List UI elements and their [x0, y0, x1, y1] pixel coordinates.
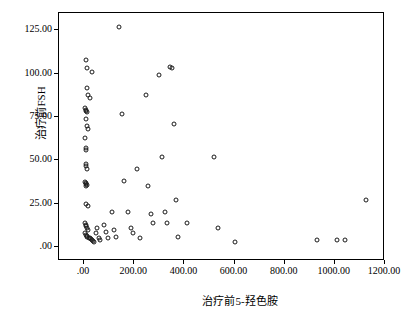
data-point — [170, 66, 175, 71]
data-point — [86, 127, 91, 132]
data-point — [84, 167, 89, 172]
data-point — [83, 183, 88, 188]
data-point — [176, 234, 181, 239]
data-point — [119, 111, 124, 116]
data-point — [113, 234, 118, 239]
y-tick-mark — [54, 159, 58, 160]
y-tick-mark — [54, 246, 58, 247]
data-point — [84, 85, 89, 90]
data-point — [85, 203, 90, 208]
data-point — [232, 239, 237, 244]
data-point — [83, 135, 88, 140]
data-point — [126, 210, 131, 215]
y-tick-mark — [54, 203, 58, 204]
x-tick-mark — [334, 260, 335, 264]
plot-area — [59, 13, 383, 259]
data-point — [131, 231, 136, 236]
x-tick-mark — [133, 260, 134, 264]
y-tick-label: .00 — [2, 240, 52, 251]
data-point — [121, 179, 126, 184]
data-point — [216, 226, 221, 231]
data-point — [212, 154, 217, 159]
data-point — [157, 73, 162, 78]
data-point — [185, 220, 190, 225]
data-point — [160, 154, 165, 159]
data-point — [111, 227, 116, 232]
data-point — [85, 109, 90, 114]
data-point — [335, 238, 340, 243]
data-point — [364, 198, 369, 203]
data-point — [117, 24, 122, 29]
data-point — [84, 57, 89, 62]
data-point — [106, 236, 111, 241]
data-point — [109, 210, 114, 215]
data-point — [151, 220, 156, 225]
data-point — [174, 198, 179, 203]
data-point — [135, 167, 140, 172]
data-point — [315, 238, 320, 243]
x-axis-title: 治疗前5-羟色胺 — [150, 292, 330, 308]
data-point — [84, 148, 89, 153]
data-point — [101, 223, 106, 228]
x-tick-mark — [384, 260, 385, 264]
y-tick-label: 25.00 — [2, 197, 52, 208]
data-point — [143, 92, 148, 97]
y-tick-label: 100.00 — [2, 67, 52, 78]
data-point — [89, 69, 94, 74]
data-point — [148, 212, 153, 217]
data-point — [342, 238, 347, 243]
x-tick-mark — [83, 260, 84, 264]
y-tick-label: 75.00 — [2, 110, 52, 121]
data-point — [172, 121, 177, 126]
data-point — [162, 210, 167, 215]
data-point — [98, 238, 103, 243]
data-point — [104, 229, 109, 234]
data-point — [146, 184, 151, 189]
y-tick-label: 50.00 — [2, 153, 52, 164]
y-tick-mark — [54, 29, 58, 30]
x-tick-mark — [284, 260, 285, 264]
data-point — [95, 226, 100, 231]
x-tick-mark — [183, 260, 184, 264]
x-tick-label: 1200.00 — [354, 265, 402, 276]
data-point — [164, 220, 169, 225]
y-tick-label: 125.00 — [2, 23, 52, 34]
plot-frame — [58, 12, 384, 260]
data-point — [87, 95, 92, 100]
data-point — [83, 116, 88, 121]
y-tick-mark — [54, 73, 58, 74]
x-tick-mark — [234, 260, 235, 264]
scatter-chart: 治疗前FSH 治疗前5-羟色胺 .0025.0050.0075.00100.00… — [0, 0, 402, 317]
data-point — [137, 236, 142, 241]
y-tick-mark — [54, 116, 58, 117]
